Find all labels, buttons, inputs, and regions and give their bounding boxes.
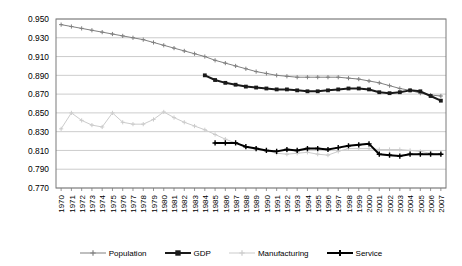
data-point: [90, 28, 94, 32]
legend-label-population: Population: [109, 249, 147, 258]
series-gdp: [203, 73, 443, 102]
x-axis-tick-label: 1994: [304, 194, 313, 212]
plot-area: 0.9500.9300.9100.8900.8700.8500.8300.810…: [0, 0, 462, 240]
series-line: [61, 112, 441, 155]
data-point: [285, 152, 289, 156]
x-axis-tick-label: 2007: [437, 194, 446, 212]
data-point: [326, 75, 330, 79]
data-point: [162, 43, 166, 47]
y-axis-tick-label: 0.850: [28, 108, 49, 118]
y-axis-tick-label: 0.890: [28, 71, 49, 81]
data-point: [285, 88, 289, 92]
plot-frame: [56, 19, 446, 188]
data-point: [326, 153, 330, 157]
data-point: [336, 75, 340, 79]
data-point: [295, 88, 299, 92]
data-point: [357, 77, 361, 81]
x-axis-tick-label: 1993: [293, 194, 302, 212]
data-point: [275, 73, 279, 77]
x-axis-tick-label: 2000: [365, 194, 374, 212]
legend-label-manufacturing: Manufacturing: [258, 249, 309, 258]
data-point: [264, 87, 268, 91]
data-point: [131, 36, 135, 40]
legend-item-gdp: GDP: [165, 249, 211, 258]
data-point: [192, 124, 196, 128]
x-axis-tick-label: 1977: [129, 194, 138, 212]
data-point: [295, 148, 300, 153]
data-point: [367, 79, 371, 83]
x-axis-tick-label: 1998: [345, 194, 354, 212]
x-axis-tick-label: 2003: [396, 194, 405, 212]
data-point: [233, 140, 238, 145]
data-point: [305, 75, 309, 79]
data-point: [59, 23, 63, 27]
data-point: [439, 99, 443, 103]
x-axis-tick-label: 1996: [324, 194, 333, 212]
data-point: [438, 152, 443, 157]
data-point: [347, 87, 351, 91]
line-chart: 0.9500.9300.9100.8900.8700.8500.8300.810…: [0, 0, 462, 266]
data-point: [326, 88, 330, 92]
x-axis-tick-label: 1987: [232, 194, 241, 212]
x-axis-tick-label: 2005: [417, 194, 426, 212]
x-axis-tick-label: 1990: [263, 194, 272, 212]
data-point: [131, 122, 135, 126]
data-point: [356, 142, 361, 147]
data-point: [223, 61, 227, 65]
data-point: [407, 152, 412, 157]
x-axis-tick-label: 1970: [57, 194, 66, 212]
data-point: [203, 54, 207, 58]
y-axis-tick-label: 0.950: [28, 14, 49, 24]
y-axis-tick-label: 0.770: [28, 183, 49, 193]
data-point: [387, 147, 391, 151]
data-point: [284, 147, 289, 152]
data-point: [398, 86, 402, 90]
data-point: [336, 145, 341, 150]
x-axis-tick-label: 1975: [109, 194, 118, 212]
data-point: [346, 76, 350, 80]
x-axis-tick-label: 1995: [314, 194, 323, 212]
data-point: [234, 64, 238, 68]
x-axis-tick-label: 2006: [427, 194, 436, 212]
data-point: [244, 85, 248, 89]
y-axis-tick-label: 0.810: [28, 146, 49, 156]
x-axis-tick-label: 1983: [191, 194, 200, 212]
data-point: [398, 90, 402, 94]
x-axis-tick-label: 2002: [386, 194, 395, 212]
data-point: [367, 88, 371, 92]
x-axis-tick-label: 1971: [68, 194, 77, 212]
x-axis-tick-label: 1974: [98, 194, 107, 212]
data-point: [213, 78, 217, 82]
data-point: [367, 146, 371, 150]
x-axis-tick-label: 1989: [252, 194, 261, 212]
data-point: [110, 32, 114, 36]
series-line: [205, 75, 441, 100]
x-axis-tick-label: 1972: [78, 194, 87, 212]
data-point: [203, 128, 207, 132]
data-point: [264, 71, 268, 75]
legend-label-gdp: GDP: [194, 249, 211, 258]
x-axis-tick-label: 1992: [283, 194, 292, 212]
chart-legend: Population GDP Manufacturing: [0, 240, 462, 266]
service-legend-key: [327, 249, 353, 258]
data-point: [192, 52, 196, 56]
data-point: [346, 143, 351, 148]
x-axis-tick-label: 1976: [119, 194, 128, 212]
data-point: [254, 86, 258, 90]
data-point: [223, 81, 227, 85]
manufacturing-legend-key: [229, 249, 255, 258]
x-axis-tick-label: 1979: [150, 194, 159, 212]
data-point: [264, 148, 269, 153]
data-point: [397, 153, 402, 158]
x-axis-tick-label: 1981: [170, 194, 179, 212]
data-point: [439, 94, 443, 98]
data-point: [80, 26, 84, 30]
data-point: [325, 147, 330, 152]
data-point: [203, 73, 207, 77]
data-point: [336, 88, 340, 92]
gdp-legend-key: [165, 249, 191, 258]
chart-canvas: 0.9500.9300.9100.8900.8700.8500.8300.810…: [0, 0, 462, 240]
data-point: [172, 46, 176, 50]
data-point: [398, 147, 402, 151]
data-point: [121, 34, 125, 38]
